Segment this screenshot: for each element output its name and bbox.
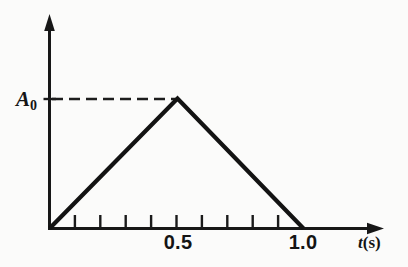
x-axis-units: (s) (363, 233, 381, 252)
plot-canvas (0, 0, 408, 267)
y-axis-arrow-icon (44, 14, 55, 31)
amplitude-symbol: A (16, 87, 30, 111)
y-axis-amplitude-label: A0 (16, 87, 37, 114)
x-axis-tick-group (75, 215, 278, 229)
amplitude-subscript: 0 (30, 98, 37, 113)
x-tick-label-0-5: 0.5 (150, 231, 206, 254)
x-tick-label-1-0: 1.0 (275, 231, 331, 254)
figure-container: 0.5 1.0 t(s) A0 (0, 0, 408, 267)
triangular-pulse-curve (50, 99, 304, 229)
x-axis-title: t(s) (358, 233, 381, 253)
